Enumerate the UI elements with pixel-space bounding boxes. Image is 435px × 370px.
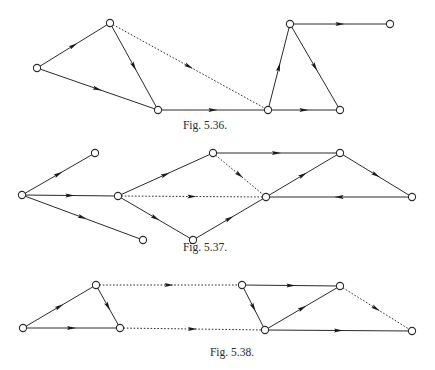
arrowhead-icon [161, 171, 171, 178]
arrowhead-icon [130, 62, 138, 72]
arrowhead-icon [298, 304, 308, 312]
node-R [92, 281, 99, 288]
arrowhead-icon [69, 41, 79, 49]
node-E [286, 20, 293, 27]
node-S [116, 324, 123, 331]
node-O [336, 149, 343, 156]
arrowhead-icon [371, 171, 381, 179]
arrowhead-icon [187, 194, 196, 198]
arrowhead-icon [165, 283, 174, 287]
arrowhead-icon [298, 171, 308, 179]
node-T [238, 281, 245, 288]
arrowhead-icon [371, 304, 381, 312]
arrowhead-icon [250, 303, 258, 313]
node-H [18, 191, 25, 198]
arrowhead-icon [54, 170, 64, 178]
node-B [106, 19, 113, 26]
caption-fig-5-38: Fig. 5.38. [210, 346, 254, 358]
arrowhead-icon [184, 63, 194, 71]
node-F [386, 20, 393, 27]
node-L [209, 149, 216, 156]
caption-fig-5-37: Fig. 5.37. [183, 241, 227, 253]
arrowhead-icon [78, 214, 88, 221]
arrowhead-icon [225, 214, 235, 222]
figure-5-38-graph [19, 281, 415, 334]
node-I [91, 149, 98, 156]
arrowhead-icon [93, 86, 103, 93]
node-D [264, 106, 271, 113]
node-W [408, 327, 415, 334]
node-N [262, 193, 269, 200]
figure-5-37-graph [18, 149, 415, 243]
node-V [336, 282, 343, 289]
directed-graph-figures [0, 0, 435, 370]
caption-fig-5-36: Fig. 5.36. [183, 119, 227, 131]
node-U [261, 326, 268, 333]
node-J [114, 192, 121, 199]
figure-5-36-graph [33, 19, 393, 113]
node-K [139, 236, 146, 243]
node-P [408, 193, 415, 200]
arrowhead-icon [104, 302, 112, 312]
arrowhead-icon [55, 302, 65, 310]
node-G [336, 106, 343, 113]
arrowhead-icon [276, 62, 282, 72]
arrowhead-icon [151, 214, 161, 222]
arrowhead-icon [311, 62, 319, 72]
node-Q [19, 324, 26, 331]
node-C [154, 106, 161, 113]
node-A [33, 64, 40, 71]
